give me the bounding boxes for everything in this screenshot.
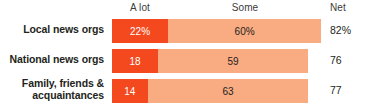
bar-segment-a-lot: 22% (112, 19, 168, 43)
bar-track: 18 59 (112, 49, 308, 73)
chart-row: Family, friends & acquaintances 14 63 77 (0, 79, 383, 103)
bar-value-a-lot: 14 (124, 86, 135, 97)
bar-segment-a-lot: 14 (112, 79, 148, 103)
bar-segment-a-lot: 18 (112, 49, 158, 73)
column-header-net: Net (330, 2, 378, 13)
stacked-bar-chart: A lot Some Net Local news orgs 22% 60% 8… (0, 0, 383, 110)
bar-value-some: 63 (222, 86, 233, 97)
bar-segment-some: 60% (168, 19, 321, 43)
category-label: Local news orgs (0, 24, 104, 36)
bar-track: 14 63 (112, 79, 308, 103)
bar-segment-some: 63 (148, 79, 309, 103)
column-header-some: Some (168, 2, 322, 13)
bar-track: 22% 60% (112, 19, 321, 43)
category-label-line1: Family, friends & (22, 77, 104, 89)
category-label: Family, friends & acquaintances (0, 78, 104, 101)
bar-segment-some: 59 (158, 49, 308, 73)
bar-value-some: 59 (228, 56, 239, 67)
net-value: 77 (330, 84, 378, 96)
bar-value-a-lot: 18 (129, 56, 140, 67)
chart-row: Local news orgs 22% 60% 82% (0, 19, 383, 43)
bar-value-some: 60% (235, 26, 255, 37)
net-value: 82% (330, 24, 378, 36)
net-value: 76 (330, 54, 378, 66)
category-label: National news orgs (0, 54, 104, 66)
category-label-line2: acquaintances (32, 89, 104, 101)
chart-row: National news orgs 18 59 76 (0, 49, 383, 73)
bar-value-a-lot: 22% (130, 26, 150, 37)
column-header-a-lot: A lot (112, 2, 168, 13)
